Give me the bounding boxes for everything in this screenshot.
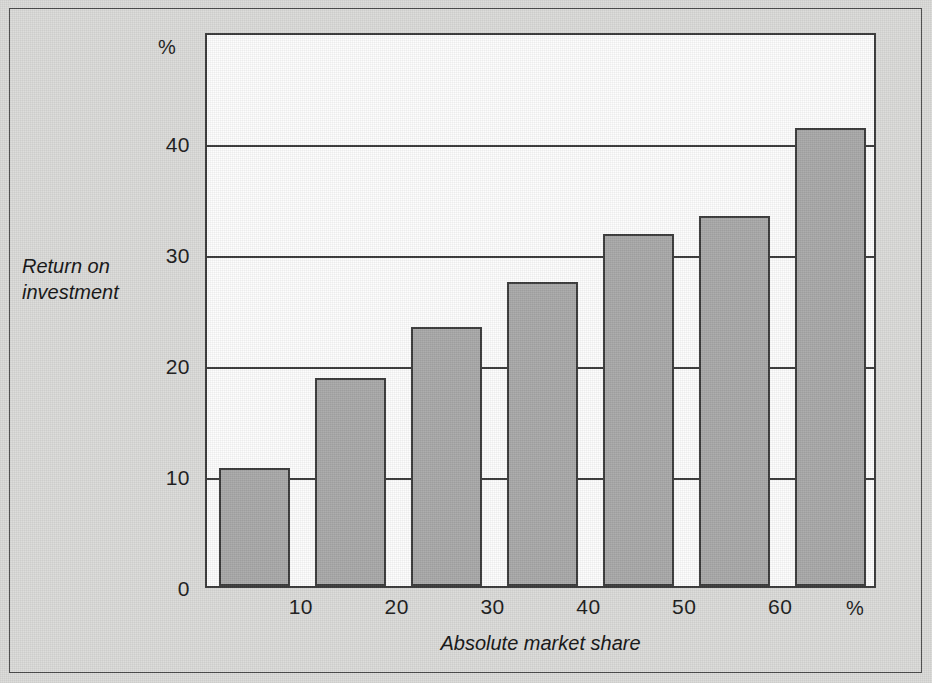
y-tick-label-10: 10 [130,467,190,488]
x-tick-label-20: 20 [367,596,427,617]
y-tick-label-40: 40 [130,134,190,155]
x-tick-label-30: 30 [463,596,523,617]
bar-10-20[interactable] [315,378,386,586]
bar-0-10[interactable] [219,468,290,586]
bar-50-60[interactable] [699,216,770,586]
x-axis-tick-labels: 102030405060 [205,596,876,626]
gridline-y-40 [207,145,874,147]
bar-30-40[interactable] [507,282,578,586]
bar-40-50[interactable] [603,234,674,586]
x-tick-label-10: 10 [271,596,331,617]
plot-area [205,33,876,588]
x-axis-title: Absolute market share [205,632,876,655]
y-axis-tick-labels: 010203040 [110,33,190,588]
y-tick-label-0: 0 [130,578,190,599]
x-tick-label-40: 40 [558,596,618,617]
x-tick-label-60: 60 [750,596,810,617]
bar-20-30[interactable] [411,327,482,586]
figure-container: % Return on investment 010203040 1020304… [0,0,932,683]
x-tick-label-50: 50 [654,596,714,617]
x-axis-unit-label: % [846,597,864,620]
y-tick-label-30: 30 [130,245,190,266]
bar-60-70[interactable] [795,128,866,586]
y-tick-label-20: 20 [130,356,190,377]
gridline-y-30 [207,256,874,258]
